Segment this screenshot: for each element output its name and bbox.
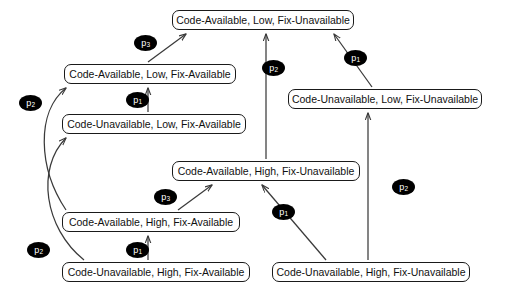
- edge-layer: [0, 0, 505, 301]
- edge-label-text: p: [133, 246, 138, 255]
- node-label: Code-Available, Low, Fix-Unavailable: [176, 15, 350, 26]
- edge-label-subscript: 2: [31, 102, 35, 109]
- edge-label-p1-n3-n1: p1: [344, 50, 367, 66]
- node-label: Code-Unavailable, High, Fix-Unavailable: [276, 267, 465, 278]
- edge-label-text: p: [133, 96, 138, 105]
- edge-label-p2-n6-n2: p2: [19, 95, 42, 111]
- edge-label-p1-n8-n5: p1: [272, 204, 295, 220]
- node-code-unavailable-high-fix-available[interactable]: Code-Unavailable, High, Fix-Available: [62, 262, 250, 282]
- edge-label-text: p: [269, 64, 274, 73]
- edge-label-text: p: [279, 208, 284, 217]
- edge-n8-n5-p1: [262, 185, 326, 260]
- edge-label-text: p: [351, 54, 356, 63]
- node-code-available-high-fix-available[interactable]: Code-Available, High, Fix-Available: [62, 212, 240, 232]
- edge-label-p1-n7-n6: p1: [126, 242, 149, 258]
- edge-label-subscript: 3: [166, 196, 170, 203]
- edge-label-text: p: [34, 246, 39, 255]
- edge-label-p3-n6-n5: p3: [154, 189, 177, 205]
- node-code-unavailable-low-fix-unavailable[interactable]: Code-Unavailable, Low, Fix-Unavailable: [288, 89, 482, 109]
- node-code-available-low-fix-unavailable[interactable]: Code-Available, Low, Fix-Unavailable: [172, 10, 354, 30]
- edge-label-subscript: 1: [138, 99, 142, 106]
- edge-label-p2-n7-n4: p2: [27, 242, 50, 258]
- edge-label-p2-n8-n3: p2: [392, 179, 415, 195]
- node-code-available-high-fix-unavailable[interactable]: Code-Available, High, Fix-Unavailable: [172, 161, 360, 181]
- edge-label-text: p: [399, 183, 404, 192]
- edge-label-subscript: 1: [356, 57, 360, 64]
- edge-n7-n4-p2: [48, 138, 84, 260]
- state-transition-diagram: Code-Available, Low, Fix-Unavailable Cod…: [0, 0, 505, 301]
- edge-n6-n5-p3: [178, 185, 212, 210]
- edge-label-p2-n5-n1: p2: [262, 60, 285, 76]
- edge-label-subscript: 1: [284, 211, 288, 218]
- edge-label-text: p: [26, 99, 31, 108]
- node-code-unavailable-low-fix-available[interactable]: Code-Unavailable, Low, Fix-Available: [62, 114, 246, 134]
- edge-label-p3-n2-n1: p3: [134, 35, 157, 51]
- node-label: Code-Available, High, Fix-Unavailable: [178, 166, 355, 177]
- edge-label-subscript: 2: [404, 186, 408, 193]
- node-label: Code-Unavailable, Low, Fix-Available: [67, 119, 241, 130]
- edge-label-subscript: 3: [146, 42, 150, 49]
- edge-label-subscript: 2: [274, 67, 278, 74]
- edge-label-text: p: [141, 39, 146, 48]
- node-label: Code-Available, Low, Fix-Available: [69, 69, 230, 80]
- node-label: Code-Available, High, Fix-Available: [69, 217, 233, 228]
- node-code-unavailable-high-fix-unavailable[interactable]: Code-Unavailable, High, Fix-Unavailable: [272, 262, 470, 282]
- edge-label-subscript: 2: [39, 249, 43, 256]
- node-code-available-low-fix-available[interactable]: Code-Available, Low, Fix-Available: [64, 64, 236, 84]
- edge-label-text: p: [161, 193, 166, 202]
- edge-label-p1-n4-n2: p1: [126, 92, 149, 108]
- node-label: Code-Unavailable, High, Fix-Available: [68, 267, 245, 278]
- edge-label-subscript: 1: [138, 249, 142, 256]
- node-label: Code-Unavailable, Low, Fix-Unavailable: [292, 94, 478, 105]
